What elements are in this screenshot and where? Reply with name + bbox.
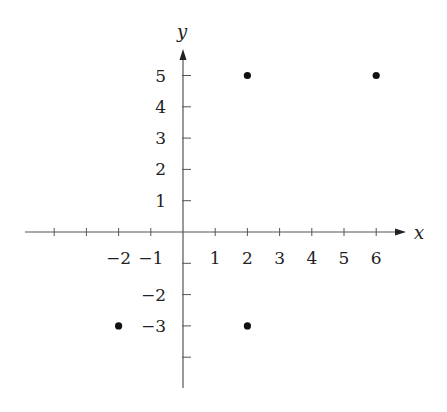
- data-point: [115, 322, 122, 329]
- y-tick-label: 4: [155, 97, 166, 117]
- y-tick-label: 3: [155, 128, 166, 148]
- x-axis-label: x: [414, 222, 424, 243]
- x-tick-label: −1: [138, 248, 163, 268]
- y-tick-label: −2: [141, 285, 166, 305]
- x-tick-label: 1: [210, 248, 221, 268]
- y-tick-label: 2: [155, 159, 166, 179]
- y-tick-label: 5: [155, 66, 166, 86]
- y-tick-label: 1: [155, 191, 166, 211]
- tick-marks: [54, 76, 376, 358]
- axes: [25, 49, 406, 388]
- x-tick-labels: −2−1123456: [106, 248, 382, 268]
- x-tick-label: −2: [106, 248, 131, 268]
- x-tick-label: 6: [371, 248, 382, 268]
- x-tick-label: 5: [339, 248, 350, 268]
- data-point: [244, 72, 251, 79]
- x-axis-arrow-icon: [395, 229, 406, 236]
- x-tick-label: 3: [274, 248, 285, 268]
- data-point: [244, 322, 251, 329]
- x-tick-label: 2: [242, 248, 253, 268]
- y-axis-label: y: [176, 21, 188, 42]
- y-axis-arrow-icon: [180, 49, 187, 60]
- data-point: [373, 72, 380, 79]
- coordinate-plane: −2−1123456 54321−2−3 x y: [0, 0, 447, 412]
- y-tick-label: −3: [141, 316, 166, 336]
- y-tick-labels: 54321−2−3: [141, 66, 166, 336]
- x-tick-label: 4: [306, 248, 317, 268]
